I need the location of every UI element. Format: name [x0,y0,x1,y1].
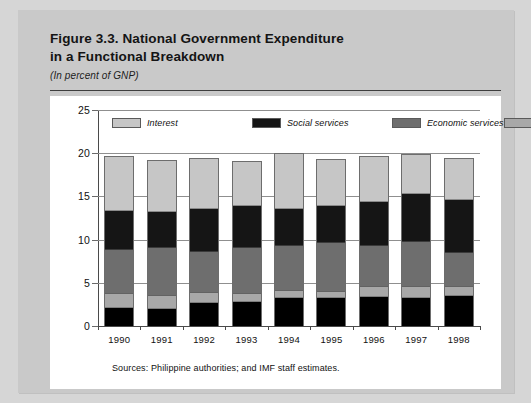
bar-segment-general-public-services [105,308,133,326]
figure-subtitle: (In percent of GNP) [50,70,510,81]
x-tick-mark [98,326,99,330]
bar-segment-economic-services [402,242,430,287]
bar-segment-economic-services [445,253,473,288]
x-tick-mark [310,326,311,330]
bar-1996 [359,156,389,326]
title-divider [50,90,501,91]
bar-segment-social-services [190,209,218,251]
y-axis-tick-label: 20 [66,147,90,159]
bar-segment-defense [402,287,430,297]
bar-segment-social-services [445,200,473,253]
bar-segment-social-services [402,194,430,242]
figure-panel: Figure 3.3. National Government Expendit… [18,10,514,393]
x-tick-mark [268,326,269,330]
y-axis-tick-label: 0 [66,320,90,332]
sources-note: Sources: Philippine authorities; and IMF… [112,363,340,373]
x-tick-mark [183,326,184,330]
bar-segment-economic-services [148,248,176,296]
y-axis-line [98,110,99,326]
bar-1998 [444,158,474,326]
x-axis-tick-label: 1992 [193,334,215,345]
bar-segment-social-services [148,212,176,248]
y-tick-mark [92,110,98,111]
figure-title: Figure 3.3. National Government Expendit… [50,30,510,66]
bar-1991 [147,160,177,326]
bar-segment-defense [360,287,388,297]
x-tick-mark [353,326,354,330]
figure-page: Figure 3.3. National Government Expendit… [0,0,531,403]
legend-swatch-icon [504,118,531,128]
bar-1993 [232,161,262,326]
x-axis-tick-label: 1993 [236,334,258,345]
bar-segment-economic-services [233,248,261,295]
bar-segment-defense [190,293,218,303]
bar-segment-social-services [105,211,133,250]
bar-segment-economic-services [275,246,303,291]
bar-segment-general-public-services [190,303,218,326]
bar-segment-defense [105,294,133,308]
x-axis-tick-label: 1997 [405,334,427,345]
legend-item: Defense [504,116,531,129]
bar-segment-defense [148,296,176,309]
bar-1994 [274,153,304,326]
bar-segment-interest [445,159,473,200]
x-axis-line [98,326,480,327]
y-tick-mark [92,283,98,284]
bar-segment-defense [275,291,303,298]
bar-segment-interest [360,157,388,202]
x-axis-tick-label: 1995 [320,334,342,345]
x-axis-tick-label: 1998 [448,334,470,345]
x-axis-tick-label: 1996 [363,334,385,345]
gridline [98,110,480,111]
bar-segment-general-public-services [445,296,473,326]
bar-segment-economic-services [317,243,345,292]
bar-segment-interest [233,162,261,206]
x-tick-mark [225,326,226,330]
x-axis-tick-label: 1994 [278,334,300,345]
bar-segment-general-public-services [360,297,388,326]
bar-segment-social-services [317,206,345,243]
bar-segment-interest [148,161,176,212]
stacked-bar-chart: 0510152025199019911992199319941995199619… [50,96,501,389]
bar-1997 [401,154,431,326]
bar-segment-economic-services [360,246,388,287]
bar-segment-social-services [233,206,261,247]
bar-segment-general-public-services [317,298,345,326]
x-tick-mark [480,326,481,330]
y-tick-mark [92,153,98,154]
bar-1995 [316,159,346,326]
figure-header: Figure 3.3. National Government Expendit… [50,30,510,81]
bar-segment-general-public-services [275,298,303,326]
bar-segment-interest [402,155,430,194]
bar-segment-interest [275,154,303,209]
bar-segment-economic-services [190,252,218,293]
bar-segment-social-services [275,209,303,245]
y-tick-mark [92,240,98,241]
y-axis-tick-label: 15 [66,190,90,202]
y-axis-tick-label: 10 [66,234,90,246]
bar-segment-interest [190,159,218,209]
bar-segment-general-public-services [233,302,261,326]
bar-segment-social-services [360,202,388,246]
x-tick-mark [395,326,396,330]
chart-card: InterestSocial servicesEconomic services… [50,96,501,389]
plot-area [98,110,480,326]
x-tick-mark [438,326,439,330]
x-axis-tick-label: 1991 [151,334,173,345]
y-tick-mark [92,196,98,197]
y-axis-tick-label: 25 [66,104,90,116]
bar-segment-economic-services [105,250,133,294]
bar-segment-interest [105,157,133,211]
bar-1990 [104,156,134,326]
bar-segment-defense [233,294,261,302]
bar-segment-defense [445,287,473,296]
bar-segment-defense [317,292,345,298]
bar-1992 [189,158,219,326]
y-axis-tick-label: 5 [66,277,90,289]
x-tick-mark [140,326,141,330]
bar-segment-general-public-services [148,309,176,326]
x-axis-tick-label: 1990 [108,334,130,345]
bar-segment-general-public-services [402,298,430,326]
bar-segment-interest [317,160,345,206]
